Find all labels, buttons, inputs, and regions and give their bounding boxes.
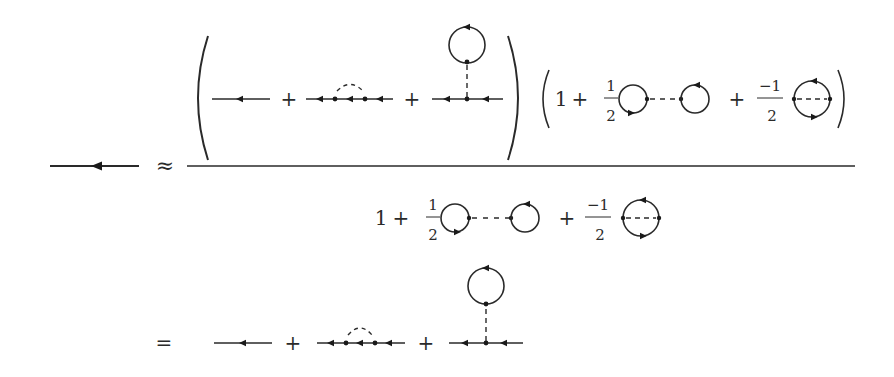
num-free-propagator xyxy=(212,96,270,102)
res-free-propagator xyxy=(214,340,272,346)
plus-sign: + xyxy=(281,87,298,111)
coef-numerator: 1 xyxy=(428,196,438,214)
plus-sign: + xyxy=(404,87,421,111)
one: 1 xyxy=(375,206,388,230)
coef-denominator: 2 xyxy=(428,226,438,244)
coef-denominator: 2 xyxy=(606,107,616,125)
coef-numerator: −1 xyxy=(587,196,609,214)
feynman-equation: ≈ + + 1 + 1 2 xyxy=(0,0,894,377)
equals-sign: = xyxy=(156,331,173,355)
big-left-paren xyxy=(198,36,208,160)
plus-sign: + xyxy=(285,331,302,355)
denominator: 1 + 1 2 + −1 2 xyxy=(375,196,662,244)
factor-right-paren xyxy=(838,70,844,128)
res-exchange-self-energy xyxy=(317,328,405,346)
plus-sign: + xyxy=(559,206,576,230)
arrow-left-icon xyxy=(91,162,102,171)
coef-numerator: −1 xyxy=(759,77,781,95)
plus-sign: + xyxy=(729,87,746,111)
num-tadpole xyxy=(432,24,503,102)
coef-numerator: 1 xyxy=(606,77,616,95)
den-dumbbell-vacuum xyxy=(441,201,539,235)
coef-denominator: 2 xyxy=(595,226,605,244)
plus-sign: + xyxy=(572,87,589,111)
big-right-paren xyxy=(508,36,518,160)
plus-sign: + xyxy=(418,331,435,355)
num-oyster-vacuum xyxy=(792,78,832,120)
factor-left-paren xyxy=(543,70,549,128)
coef-denominator: 2 xyxy=(767,107,777,125)
num-dumbbell-vacuum xyxy=(619,82,709,116)
plus-sign: + xyxy=(393,206,410,230)
num-exchange-self-energy xyxy=(306,85,393,103)
approx-sign: ≈ xyxy=(156,153,174,178)
lhs-full-propagator xyxy=(50,162,139,171)
den-oyster-vacuum xyxy=(621,197,661,239)
one: 1 xyxy=(555,87,568,111)
res-tadpole xyxy=(449,265,523,346)
